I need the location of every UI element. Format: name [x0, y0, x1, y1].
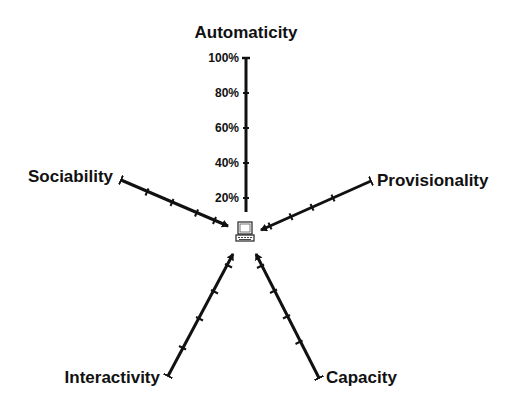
computer-icon — [236, 222, 254, 241]
tick-label-20: 20% — [215, 191, 239, 205]
tick-label-100: 100% — [208, 51, 239, 65]
tick-label-80: 80% — [215, 86, 239, 100]
tick-label-40: 40% — [215, 156, 239, 170]
radial-diagram: 100% 80% 60% 40% 20% Automaticity Provis… — [0, 0, 515, 409]
axis-label-interactivity: Interactivity — [65, 368, 161, 387]
axis-automaticity: 100% 80% 60% 40% 20% Automaticity — [195, 23, 299, 212]
tick-label-60: 60% — [215, 121, 239, 135]
axis-label-capacity: Capacity — [326, 368, 397, 387]
axis-label-provisionality: Provisionality — [377, 171, 489, 190]
axis-label-sociability: Sociability — [28, 167, 114, 186]
axis-capacity: Capacity — [256, 254, 397, 387]
axis-label-automaticity: Automaticity — [195, 23, 299, 42]
axis-interactivity: Interactivity — [65, 254, 233, 387]
axis-sociability: Sociability — [28, 167, 228, 226]
axis-provisionality: Provisionality — [261, 171, 489, 230]
